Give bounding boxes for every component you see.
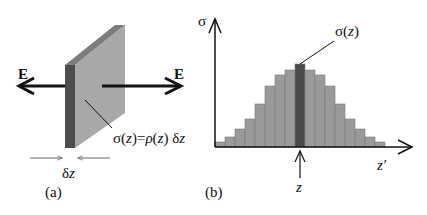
panel-b-label: (b) [205, 184, 223, 201]
callout-leader [300, 41, 334, 64]
x-axis-label: z′ [376, 157, 387, 173]
panel-b: σ z′ σ(z) z (b) [198, 13, 412, 201]
histogram-bar [325, 86, 335, 147]
histogram-bar [315, 75, 325, 147]
histogram-bar [345, 119, 355, 147]
histogram-bar [275, 75, 285, 147]
field-label-right: E [174, 66, 184, 82]
histogram-bar [355, 129, 365, 147]
field-label-left: E [18, 66, 28, 82]
histogram-bars [215, 64, 385, 147]
highlighted-bar [295, 64, 305, 147]
histogram-bar [365, 137, 375, 147]
position-marker-label: z [295, 179, 302, 195]
surface-charge-equation: σ(z)=ρ(z) δz [113, 130, 185, 147]
panel-a-label: (a) [45, 184, 62, 201]
histogram-bar [255, 104, 265, 147]
callout-label: σ(z) [335, 23, 359, 40]
y-axis-label: σ [198, 13, 206, 29]
histogram-bar [305, 70, 315, 147]
slab-edge [65, 65, 75, 148]
histogram-bar [265, 86, 275, 147]
histogram-bar [335, 104, 345, 147]
histogram-bar [235, 129, 245, 147]
histogram-bar [245, 119, 255, 147]
histogram-bar [285, 70, 295, 147]
panel-a: E E σ(z)=ρ(z) δz δz (a) [18, 25, 185, 201]
diagram-canvas: E E σ(z)=ρ(z) δz δz (a) [0, 0, 427, 215]
thickness-label: δz [62, 165, 75, 181]
histogram-bar [225, 137, 235, 147]
